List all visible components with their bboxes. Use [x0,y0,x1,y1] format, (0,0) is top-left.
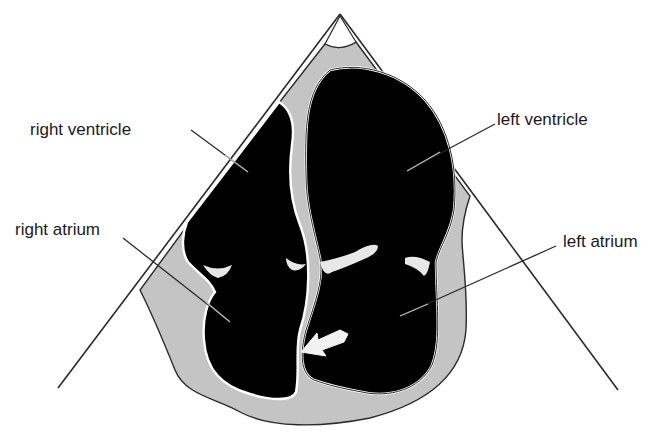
label-right-ventricle: right ventricle [30,121,131,138]
label-left-ventricle: left ventricle [497,111,588,128]
apex-notch [325,16,356,48]
echo-diagram: right ventricle left ventricle right atr… [0,0,664,445]
label-left-atrium: left atrium [563,233,638,250]
label-right-atrium: right atrium [15,221,100,238]
